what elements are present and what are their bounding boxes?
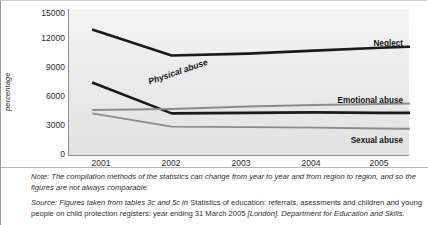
series-lines	[69, 9, 410, 156]
line-chart: percentage 15000 12000 9000 6000 3000 0 …	[1, 1, 428, 167]
y-tick-label: 12000	[21, 33, 65, 43]
chart-source: Source: Figures taken from tables 3c and…	[31, 198, 423, 219]
series-label-emotional-abuse: Emotional abuse	[337, 96, 403, 105]
y-tick-label: 6000	[21, 91, 65, 101]
y-axis-tick-labels: 15000 12000 9000 6000 3000 0	[21, 1, 65, 167]
series-line-sexual-abuse	[92, 113, 410, 128]
chart-note: Note: The compilation methods of the sta…	[31, 172, 419, 193]
series-label-neglect: Neglect	[373, 39, 403, 48]
note-divider	[1, 167, 428, 168]
y-tick-label: 15000	[21, 8, 65, 18]
y-tick-label: 9000	[21, 62, 65, 72]
y-tick-label: 0	[21, 149, 65, 159]
series-line-neglect	[92, 30, 410, 56]
y-axis-title: percentage	[3, 59, 17, 125]
y-tick-label: 3000	[21, 120, 65, 130]
source-publisher: [London]. Department for Education and S…	[248, 209, 405, 218]
x-axis-tick-labels: 2001 2002 2003 2004 2005	[68, 158, 409, 172]
source-lead: Source: Figures taken from tables 3c and…	[31, 198, 190, 207]
series-label-sexual-abuse: Sexual abuse	[351, 136, 403, 145]
plot-area: Neglect Emotional abuse Sexual abuse Phy…	[68, 9, 409, 156]
